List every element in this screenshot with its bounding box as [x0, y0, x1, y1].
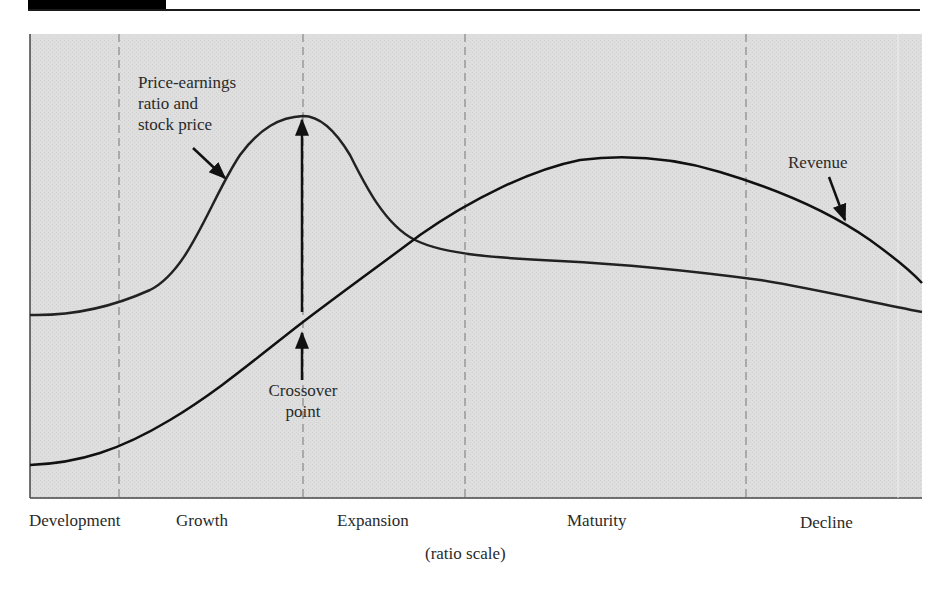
pe-label-line-3: stock price [138, 114, 236, 135]
pe-label-line-2: ratio and [138, 93, 236, 114]
stage-label-development: Development [29, 511, 121, 531]
pe-ratio-label: Price-earnings ratio and stock price [138, 72, 236, 135]
stage-label-growth: Growth [176, 511, 228, 531]
crossover-point-label: Crossover point [258, 380, 348, 422]
ratio-scale-note: (ratio scale) [425, 544, 506, 564]
revenue-label: Revenue [788, 152, 847, 173]
crossover-label-line-2: point [258, 401, 348, 422]
crossover-label-line-1: Crossover [258, 380, 348, 401]
stage-label-maturity: Maturity [567, 511, 627, 531]
stage-label-decline: Decline [800, 513, 853, 533]
pe-label-line-1: Price-earnings [138, 72, 236, 93]
stage-label-expansion: Expansion [337, 511, 409, 531]
